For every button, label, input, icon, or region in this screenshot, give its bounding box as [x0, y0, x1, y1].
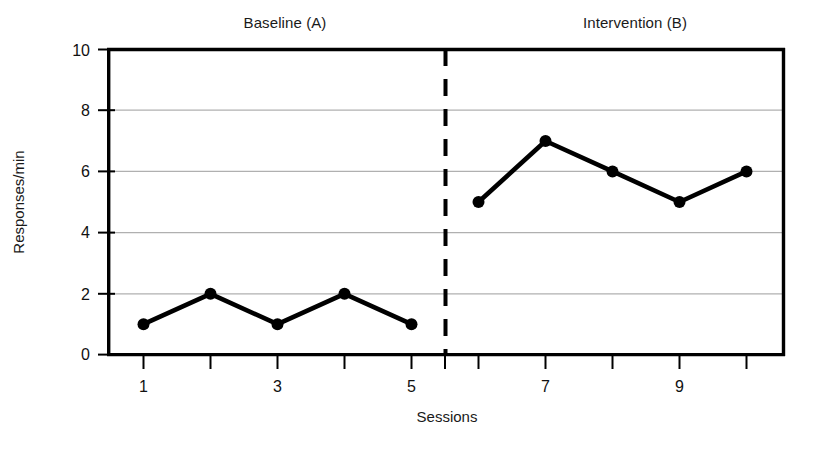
- data-point: [339, 288, 351, 300]
- data-point: [205, 288, 217, 300]
- y-axis-title: Responses/min: [10, 150, 27, 253]
- y-tick-label-8: 8: [81, 102, 90, 119]
- data-point: [540, 135, 552, 147]
- x-axis-title: Sessions: [417, 408, 478, 425]
- x-tick-label-3: 3: [273, 378, 282, 395]
- x-tick-label-9: 9: [675, 378, 684, 395]
- data-point: [473, 196, 485, 208]
- y-tick-label-0: 0: [81, 346, 90, 363]
- data-point: [607, 165, 619, 177]
- y-axis-tick-labels: 0 2 4 6 8 10: [72, 42, 90, 364]
- y-tick-label-6: 6: [81, 163, 90, 180]
- x-tick-label-7: 7: [541, 378, 550, 395]
- phase-label-baseline: Baseline (A): [244, 14, 327, 31]
- data-point: [272, 318, 284, 330]
- x-axis-tick-labels: 1 3 5 7 9: [139, 378, 684, 395]
- data-point: [138, 318, 150, 330]
- x-tick-label-1: 1: [139, 378, 148, 395]
- y-tick-label-2: 2: [81, 286, 90, 303]
- data-point: [741, 165, 753, 177]
- y-tick-label-4: 4: [81, 224, 90, 241]
- y-axis-ticks: [98, 50, 115, 355]
- y-tick-label-10: 10: [72, 42, 90, 59]
- data-point: [406, 318, 418, 330]
- x-tick-label-5: 5: [407, 378, 416, 395]
- chart-canvas: 0 2 4 6 8 10 1 3 5 7 9: [0, 0, 818, 451]
- single-case-design-chart: 0 2 4 6 8 10 1 3 5 7 9: [0, 0, 818, 451]
- phase-label-intervention: Intervention (B): [583, 14, 687, 31]
- data-point: [674, 196, 686, 208]
